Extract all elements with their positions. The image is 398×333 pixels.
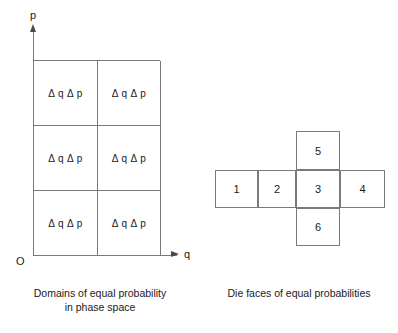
q-axis-arrow-icon [171, 251, 179, 257]
die-face-2: 2 [258, 170, 296, 208]
origin-label: O [16, 256, 25, 267]
phase-cell: Δ q Δ p [34, 61, 98, 126]
phase-cell: Δ q Δ p [98, 61, 161, 126]
die-face-5: 5 [296, 131, 340, 170]
phase-space-panel: p q O Δ q Δ p Δ q Δ p Δ q Δ p Δ q Δ p Δ … [0, 0, 200, 333]
caption-line-2: in phase space [8, 300, 192, 314]
phase-space-caption: Domains of equal probability in phase sp… [8, 286, 192, 314]
caption-line-1: Domains of equal probability [8, 286, 192, 300]
phase-cell: Δ q Δ p [98, 126, 161, 191]
phase-cell: Δ q Δ p [34, 126, 98, 191]
p-axis-arrow-icon [30, 24, 36, 32]
p-axis-label: p [30, 10, 36, 21]
phase-cell: Δ q Δ p [34, 191, 98, 256]
die-face-4: 4 [340, 170, 385, 208]
phase-cell: Δ q Δ p [98, 191, 161, 256]
caption-line-1: Die faces of equal probabilities [204, 286, 394, 300]
die-net-cross: 5 1 2 3 4 6 [200, 0, 398, 260]
die-net-caption: Die faces of equal probabilities [204, 286, 394, 300]
phase-space-grid: Δ q Δ p Δ q Δ p Δ q Δ p Δ q Δ p Δ q Δ p … [33, 60, 160, 255]
die-face-1: 1 [215, 170, 258, 208]
die-face-3: 3 [296, 170, 340, 208]
die-face-6: 6 [296, 208, 340, 246]
q-axis-label: q [184, 249, 190, 260]
die-net-panel: 5 1 2 3 4 6 Die faces of equal probabili… [200, 0, 398, 333]
probability-diagram-figure: p q O Δ q Δ p Δ q Δ p Δ q Δ p Δ q Δ p Δ … [0, 0, 398, 333]
